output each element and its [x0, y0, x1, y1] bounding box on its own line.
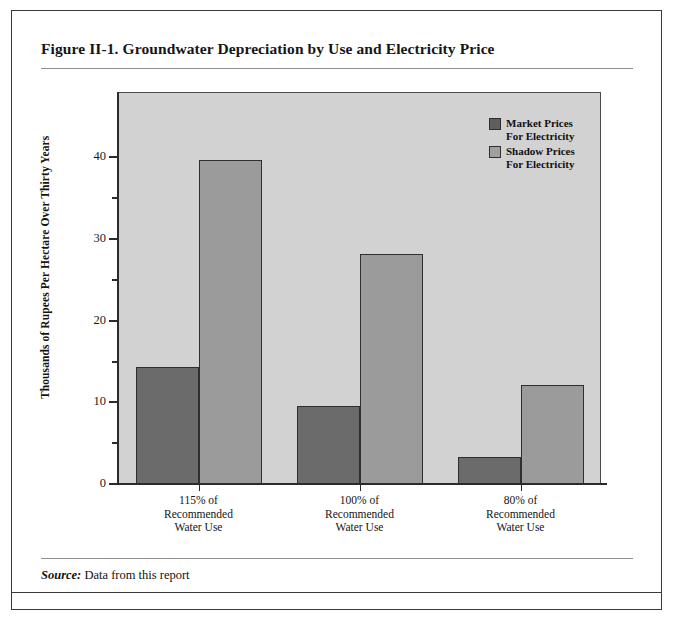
legend-item-shadow-prices: Shadow Prices For Electricity — [489, 145, 575, 170]
source-note: Source: Data from this report — [41, 568, 190, 583]
y-axis-tick-label: 40 — [80, 149, 106, 164]
bar-market-group-2 — [297, 406, 360, 485]
x-axis-tick — [360, 484, 361, 491]
y-axis-tick-label: 20 — [80, 313, 106, 328]
y-axis-tick-major — [109, 483, 118, 485]
x-axis-tick — [521, 484, 522, 491]
x-axis-line — [110, 483, 607, 485]
y-axis-tick-minor — [112, 279, 118, 281]
y-axis-tick-label: 30 — [80, 231, 106, 246]
source-divider — [41, 558, 633, 559]
page-title: Figure II-1. Groundwater Depreciation by… — [41, 40, 621, 58]
chart-legend: Market Prices For Electricity Shadow Pri… — [489, 117, 575, 170]
y-axis-tick-major — [109, 156, 118, 158]
y-axis-tick-minor — [112, 442, 118, 444]
legend-label-market-line2: For Electricity — [506, 130, 575, 142]
figure-page: Figure II-1. Groundwater Depreciation by… — [0, 0, 675, 622]
y-axis-tick-major — [109, 320, 118, 322]
x-axis-category-label: 80% ofRecommendedWater Use — [436, 494, 606, 535]
x-axis-category-label-line: Water Use — [175, 521, 223, 533]
legend-label-shadow: Shadow Prices For Electricity — [506, 145, 575, 170]
title-divider — [41, 68, 633, 69]
x-axis-tick — [199, 484, 200, 491]
x-axis-category-label-line: 100% of — [340, 494, 379, 506]
y-axis-tick-minor — [112, 361, 118, 363]
legend-swatch-shadow-icon — [489, 146, 501, 158]
y-axis-tick-label: 0 — [80, 476, 106, 491]
x-axis-category-label: 115% ofRecommendedWater Use — [114, 494, 284, 535]
x-axis-category-label-line: 115% of — [179, 494, 218, 506]
y-axis-tick-major — [109, 401, 118, 403]
x-axis-category-label-line: 80% of — [504, 494, 538, 506]
legend-swatch-market-icon — [489, 118, 501, 130]
source-text: Data from this report — [81, 568, 189, 582]
y-axis-line — [117, 92, 119, 485]
y-axis-tick-minor — [112, 197, 118, 199]
figure-bottom-rule — [11, 592, 662, 593]
x-axis-category-label-line: Water Use — [497, 521, 545, 533]
y-axis-title: Thousands of Rupees Per Hectare Over Thi… — [39, 149, 51, 399]
x-axis-category-label-line: Recommended — [325, 508, 394, 520]
x-axis-category-label-line: Water Use — [336, 521, 384, 533]
y-axis-tick-labels: 010203040 — [74, 0, 106, 622]
x-axis-category-label-line: Recommended — [164, 508, 233, 520]
bar-shadow-group-2 — [360, 254, 423, 485]
legend-label-market-line1: Market Prices — [506, 117, 573, 129]
x-axis-category-label: 100% ofRecommendedWater Use — [275, 494, 445, 535]
legend-label-shadow-line1: Shadow Prices — [506, 145, 575, 157]
bar-shadow-group-3 — [521, 385, 584, 485]
bar-market-group-1 — [136, 367, 199, 485]
legend-item-market-prices: Market Prices For Electricity — [489, 117, 575, 142]
source-label: Source: — [41, 568, 81, 582]
x-axis-category-label-line: Recommended — [486, 508, 555, 520]
y-axis-tick-label: 10 — [80, 394, 106, 409]
legend-label-shadow-line2: For Electricity — [506, 158, 575, 170]
bar-shadow-group-1 — [199, 160, 262, 485]
y-axis-tick-major — [109, 238, 118, 240]
bar-market-group-3 — [458, 457, 521, 485]
legend-label-market: Market Prices For Electricity — [506, 117, 575, 142]
